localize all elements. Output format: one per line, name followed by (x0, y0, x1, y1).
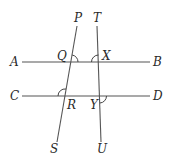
angle-arc-y (100, 96, 107, 103)
label-d: D (152, 89, 163, 103)
angle-arc-q (72, 55, 78, 62)
angle-arc-x (92, 55, 99, 62)
geometry-diagram: P T A B Q X C D R Y S U (0, 0, 169, 160)
line-tu (97, 26, 101, 142)
label-p: P (73, 11, 83, 25)
label-y: Y (90, 98, 99, 112)
label-c: C (10, 89, 19, 103)
label-x: X (101, 49, 111, 63)
label-q: Q (57, 49, 67, 63)
label-t: T (93, 11, 102, 25)
label-r: R (66, 98, 76, 112)
label-a: A (9, 55, 19, 69)
line-ps (57, 26, 77, 142)
label-s: S (50, 142, 58, 156)
label-u: U (97, 142, 108, 156)
label-b: B (152, 55, 162, 69)
